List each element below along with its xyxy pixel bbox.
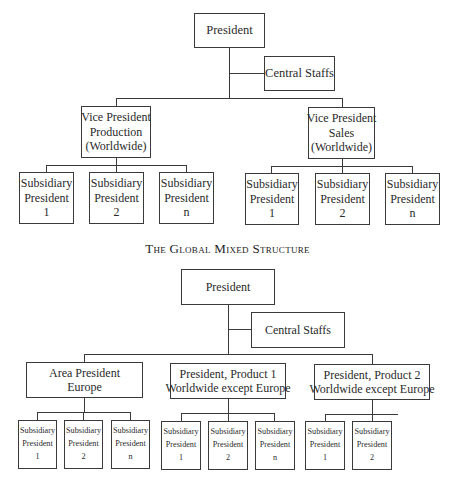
label-line: Vice President (81, 110, 151, 124)
label-line: President (310, 439, 340, 452)
label-line: 1 (323, 452, 327, 465)
connector (325, 414, 326, 421)
label-line: President (115, 438, 145, 451)
label-line: President (94, 191, 139, 205)
connector (228, 329, 251, 330)
connector (130, 412, 131, 420)
connector (181, 413, 182, 421)
label-line: Worldwide except Europe (166, 381, 291, 395)
connector (372, 354, 373, 364)
connector (228, 413, 229, 421)
label-line: President (24, 191, 69, 205)
production-subsidiary-n: Subsidiary President n (159, 172, 214, 224)
connector (37, 412, 38, 420)
label-line: n (184, 205, 190, 219)
label-line: Subsidiary (307, 426, 342, 439)
central-staffs-box: Central Staffs (264, 56, 335, 91)
connector (342, 158, 343, 166)
label-line: President (68, 438, 98, 451)
label-line: President (320, 192, 365, 206)
label-line: President, Product 2 (324, 368, 421, 382)
label-line: Production (90, 125, 143, 139)
label-line: Europe (67, 380, 102, 394)
label-line: Subsidiary (257, 426, 292, 439)
label-line: Subsidiary (91, 176, 142, 190)
president-label: President (206, 280, 251, 294)
label-line: Subsidiary (66, 425, 101, 438)
label-line: (Worldwide) (85, 139, 146, 153)
label-line: (Worldwide) (311, 140, 372, 154)
product1-subsidiary-n: Subsidiary President n (255, 421, 295, 470)
label-line: Subsidiary (161, 176, 212, 190)
area-subsidiary-n: Subsidiary President n (111, 420, 150, 469)
product2-president-box: President, Product 2 Worldwide except Eu… (314, 364, 430, 400)
label-line: 2 (340, 206, 346, 220)
label-line: Sales (329, 126, 354, 140)
label-line: n (128, 451, 132, 464)
label-line: President, Product 1 (180, 367, 277, 381)
label-line: President (357, 439, 387, 452)
connector (228, 398, 229, 413)
connector (116, 98, 343, 99)
connector (372, 399, 373, 421)
central-staffs-box: Central Staffs (251, 312, 345, 348)
label-line: President (213, 439, 243, 452)
production-subsidiary-2: Subsidiary President 2 (89, 172, 144, 224)
label-line: 2 (226, 452, 230, 465)
sales-subsidiary-n: Subsidiary President n (385, 173, 440, 225)
connector (46, 165, 47, 172)
label-line: Subsidiary (246, 177, 297, 191)
connector (116, 165, 117, 172)
label-line: Worldwide except Europe (310, 382, 435, 396)
product2-subsidiary-2: Subsidiary President 2 (352, 421, 392, 470)
label-line: 2 (370, 452, 374, 465)
connector (325, 414, 398, 415)
label-line: 2 (81, 451, 85, 464)
connector (116, 98, 117, 106)
connector (274, 413, 275, 421)
label-line: Subsidiary (113, 425, 148, 438)
vp-sales-box: Vice President Sales (Worldwide) (308, 107, 375, 159)
label-line: n (410, 206, 416, 220)
connector (229, 73, 264, 74)
sales-subsidiary-1: Subsidiary President 1 (245, 173, 299, 225)
product1-subsidiary-2: Subsidiary President 2 (208, 421, 248, 470)
label-line: Subsidiary (163, 426, 198, 439)
product2-subsidiary-1: Subsidiary President 1 (305, 421, 345, 470)
connector (342, 98, 343, 107)
label-line: Subsidiary (210, 426, 245, 439)
production-subsidiary-1: Subsidiary President 1 (19, 172, 74, 224)
sales-subsidiary-2: Subsidiary President 2 (315, 173, 370, 225)
connector (412, 166, 413, 173)
central-staffs-label: Central Staffs (265, 66, 334, 81)
label-line: Subsidiary (21, 176, 72, 190)
label-line: 2 (114, 205, 120, 219)
label-line: President (250, 192, 295, 206)
connector (116, 157, 117, 165)
president-box: President (194, 13, 265, 48)
connector (84, 354, 85, 362)
label-line: Subsidiary (317, 177, 368, 191)
label-line: 1 (44, 205, 50, 219)
central-staffs-label: Central Staffs (265, 323, 331, 337)
label-line: Vice President (307, 111, 377, 125)
diagram-title: The Global Mixed Structure (0, 241, 455, 257)
area-president-europe-box: Area President Europe (26, 362, 143, 398)
label-line: 1 (35, 451, 39, 464)
label-line: Area President (49, 366, 120, 380)
label-line: President (164, 191, 209, 205)
president-label: President (206, 23, 253, 38)
president-box: President (181, 269, 275, 305)
connector (83, 412, 84, 420)
label-line: n (273, 452, 277, 465)
connector (186, 165, 187, 172)
area-subsidiary-2: Subsidiary President 2 (64, 420, 103, 469)
area-subsidiary-1: Subsidiary President 1 (18, 420, 57, 469)
connector (342, 166, 343, 173)
label-line: Subsidiary (387, 177, 438, 191)
label-line: Subsidiary (354, 426, 389, 439)
product1-subsidiary-1: Subsidiary President 1 (161, 421, 201, 470)
label-line: President (166, 439, 196, 452)
label-line: President (260, 439, 290, 452)
label-line: Subsidiary (20, 425, 55, 438)
